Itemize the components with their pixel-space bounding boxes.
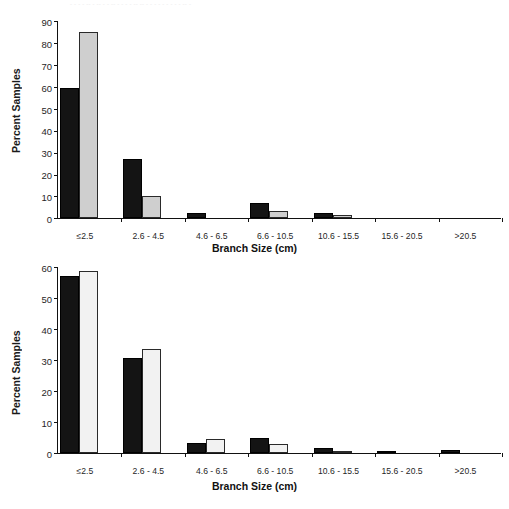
x-category-label-top-0: ≤2.5 [77,231,94,241]
x-category-label-top-6: >20.5 [455,231,477,241]
y-axis-label-top: Percent Samples [10,36,24,186]
plot-area-bottom: 0102030405060 [57,268,501,454]
x-category-label-bottom-1: 2.6 - 4.5 [133,466,165,476]
y-tick-bottom-60 [54,267,58,268]
y-tick-bottom-40 [54,329,58,330]
x-category-label-top-1: 2.6 - 4.5 [133,231,165,241]
y-tick-top-20 [54,175,58,176]
x-tick-top-5 [375,218,376,222]
chart-top: Percent Samples 0102030405060708090 Bran… [0,8,509,263]
bar-bottom-black-0 [60,276,79,453]
bar-top-black-2 [187,213,206,218]
x-category-label-top-3: 6.6 - 10.5 [257,231,293,241]
y-tick-label-top-90: 90 [30,17,52,28]
bar-bottom-white-0 [79,271,98,453]
x-tick-top-4 [312,218,313,222]
y-tick-label-bottom-50: 50 [30,294,52,305]
y-tick-label-bottom-40: 40 [30,325,52,336]
y-tick-label-bottom-0: 0 [30,449,52,460]
plot-area-top: 0102030405060708090 [57,22,501,219]
x-axis-title-top: Branch Size (cm) [0,242,509,254]
bar-top-black-0 [60,88,79,218]
y-tick-top-10 [54,196,58,197]
bar-bottom-white-1 [142,349,161,453]
y-tick-label-top-60: 60 [30,82,52,93]
x-tick-bottom-1 [121,453,122,457]
x-category-label-bottom-0: ≤2.5 [77,466,94,476]
x-category-label-bottom-4: 10.6 - 15.5 [318,466,359,476]
x-tick-bottom-4 [312,453,313,457]
x-tick-top-2 [185,218,186,222]
x-axis-title-bottom: Branch Size (cm) [0,480,509,492]
y-tick-bottom-0 [54,453,58,454]
y-tick-top-90 [54,21,58,22]
bar-top-black-3 [250,203,269,218]
y-tick-label-top-20: 20 [30,170,52,181]
x-tick-bottom-3 [248,453,249,457]
y-tick-label-top-80: 80 [30,38,52,49]
figure-root: - - - - -- - -- - - -- - - - - -- -- - -… [0,0,509,509]
x-tick-top-3 [248,218,249,222]
bar-bottom-black-5 [377,451,396,453]
x-tick-top-6 [439,218,440,222]
y-tick-label-bottom-20: 20 [30,387,52,398]
bar-top-black-1 [123,159,142,218]
y-tick-top-50 [54,109,58,110]
bar-top-gray-0 [79,32,98,218]
y-tick-label-top-50: 50 [30,104,52,115]
x-tick-bottom-5 [375,453,376,457]
bar-top-gray-4 [333,215,352,218]
y-tick-top-40 [54,131,58,132]
x-tick-top-1 [121,218,122,222]
bar-top-black-4 [314,213,333,218]
bar-bottom-white-2 [206,439,225,453]
x-category-label-bottom-5: 15.6 - 20.5 [382,466,423,476]
chart-bottom: Percent Samples 0102030405060 Branch Siz… [0,258,509,509]
y-tick-bottom-30 [54,360,58,361]
x-category-label-bottom-3: 6.6 - 10.5 [257,466,293,476]
x-tick-bottom-end [502,453,503,457]
cropped-header-text: - - - - -- - -- - - -- - - - - -- -- - -… [0,0,509,8]
y-tick-top-80 [54,43,58,44]
bar-bottom-white-4 [333,451,352,453]
y-tick-label-top-10: 10 [30,192,52,203]
y-tick-bottom-20 [54,391,58,392]
y-tick-label-top-30: 30 [30,148,52,159]
y-tick-label-bottom-10: 10 [30,418,52,429]
bar-top-gray-3 [269,211,288,218]
y-tick-label-top-40: 40 [30,126,52,137]
bar-bottom-black-2 [187,443,206,453]
x-category-label-top-5: 15.6 - 20.5 [382,231,423,241]
x-tick-top-end [502,218,503,222]
y-tick-label-bottom-30: 30 [30,356,52,367]
x-category-label-bottom-6: >20.5 [455,466,477,476]
y-axis-label-bottom: Percent Samples [10,298,24,448]
bar-bottom-white-3 [269,444,288,453]
y-tick-bottom-50 [54,298,58,299]
y-tick-top-0 [54,218,58,219]
y-tick-label-top-70: 70 [30,60,52,71]
bar-bottom-black-4 [314,448,333,453]
x-category-label-top-4: 10.6 - 15.5 [318,231,359,241]
y-tick-top-70 [54,65,58,66]
y-tick-bottom-10 [54,422,58,423]
x-tick-bottom-6 [439,453,440,457]
y-tick-top-60 [54,87,58,88]
bar-bottom-black-3 [250,438,269,454]
x-category-label-top-2: 4.6 - 6.5 [196,231,228,241]
x-category-label-bottom-2: 4.6 - 6.5 [196,466,228,476]
y-tick-label-top-0: 0 [30,214,52,225]
bar-bottom-black-6 [441,450,460,453]
x-tick-bottom-2 [185,453,186,457]
bar-top-gray-1 [142,196,161,218]
y-tick-top-30 [54,153,58,154]
y-tick-label-bottom-60: 60 [30,263,52,274]
bar-bottom-black-1 [123,358,142,453]
